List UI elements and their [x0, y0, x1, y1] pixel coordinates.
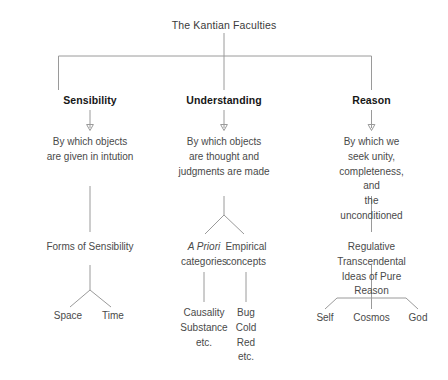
kantian-faculties-diagram: The Kantian Faculties Sensibility Unders…: [0, 0, 448, 380]
leaf-cosmos: Cosmos: [353, 311, 390, 326]
leaf-space: Space: [54, 309, 82, 324]
definition-sensibility: By which objects are given in intution: [47, 135, 134, 165]
definition-understanding: By which objects are thought and judgmen…: [178, 135, 269, 179]
a-priori-rest-text: categories: [181, 256, 227, 267]
fork-right-empirical: [224, 215, 244, 234]
faculty-heading-understanding: Understanding: [186, 93, 261, 109]
fork-right-god: [406, 298, 418, 309]
group-heading-forms-of-sensibility: Forms of Sensibility: [46, 240, 133, 255]
leaf-list-a-priori-categories: Causality Substance etc.: [180, 306, 227, 350]
faculty-heading-sensibility: Sensibility: [63, 93, 117, 109]
group-heading-empirical-concepts: Empirical concepts: [225, 240, 266, 270]
leaf-list-empirical-concepts: Bug Cold Red etc.: [236, 306, 257, 365]
arrow-head-understanding: [221, 125, 228, 131]
definition-reason: By which we seek unity, completeness, an…: [333, 135, 410, 224]
arrow-head-reason: [368, 125, 375, 131]
group-heading-regulative-ideas: Regulative Transcendental Ideas of Pure …: [333, 240, 410, 299]
leaf-self: Self: [316, 311, 333, 326]
a-priori-italic-text: A Priori: [188, 241, 220, 252]
leaf-time: Time: [102, 309, 124, 324]
fork-left-a-priori: [205, 215, 224, 234]
fork-left-self: [325, 298, 337, 309]
root-title: The Kantian Faculties: [172, 18, 277, 34]
leaf-god: God: [409, 311, 428, 326]
group-heading-a-priori-categories: A Prioricategories: [181, 240, 227, 270]
faculty-heading-reason: Reason: [352, 93, 391, 109]
fork-right-time: [90, 290, 111, 307]
fork-left-space: [70, 290, 90, 307]
arrow-head-sensibility: [87, 125, 94, 131]
